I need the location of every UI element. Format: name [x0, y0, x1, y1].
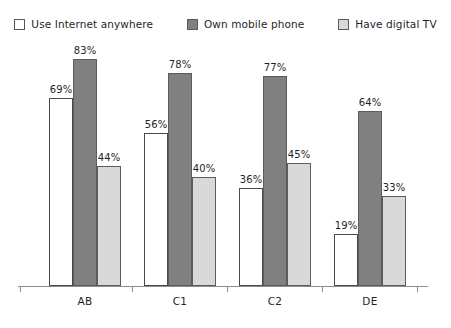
- bar-group-de: 19%64%33%: [334, 38, 406, 286]
- x-axis-label-ab: AB: [39, 295, 131, 307]
- x-axis-label-c1: C1: [134, 295, 226, 307]
- bar-de-series1[interactable]: [358, 111, 382, 286]
- bar-ab-series1[interactable]: [73, 59, 97, 286]
- x-axis-tick: [20, 286, 21, 292]
- bar-de-series0[interactable]: [334, 234, 358, 286]
- legend-item-label: Have digital TV: [355, 18, 436, 30]
- bar-value-label: 33%: [373, 182, 415, 193]
- bar-de-series2[interactable]: [382, 196, 406, 286]
- legend-item-label: Own mobile phone: [204, 18, 304, 30]
- legend-item-use-internet-anywhere: Use Internet anywhere: [14, 18, 153, 30]
- bar-value-label: 40%: [183, 163, 225, 174]
- bar-chart: Use Internet anywhere Own mobile phone H…: [0, 0, 451, 328]
- legend-swatch-icon: [187, 19, 198, 30]
- x-axis-label-c2: C2: [229, 295, 321, 307]
- bar-value-label: 64%: [349, 97, 391, 108]
- bar-value-label: 44%: [88, 152, 130, 163]
- bar-ab-series0[interactable]: [49, 98, 73, 286]
- bar-group-ab: 69%83%44%: [49, 38, 121, 286]
- plot-area: 69%83%44%56%78%40%36%77%45%19%64%33%: [18, 38, 433, 286]
- bar-c1-series2[interactable]: [192, 177, 216, 286]
- bar-c2-series1[interactable]: [263, 76, 287, 286]
- bar-c1-series0[interactable]: [144, 133, 168, 286]
- x-axis-tick: [227, 286, 228, 292]
- legend-swatch-icon: [14, 19, 25, 30]
- legend-swatch-icon: [338, 19, 349, 30]
- bar-value-label: 77%: [254, 62, 296, 73]
- legend-item-have-digital-tv: Have digital TV: [338, 18, 436, 30]
- legend-item-label: Use Internet anywhere: [31, 18, 153, 30]
- bar-group-c1: 56%78%40%: [144, 38, 216, 286]
- x-axis-label-de: DE: [324, 295, 416, 307]
- x-axis-tick: [417, 286, 418, 292]
- legend-item-own-mobile-phone: Own mobile phone: [187, 18, 304, 30]
- bar-ab-series2[interactable]: [97, 166, 121, 286]
- bar-value-label: 78%: [159, 59, 201, 70]
- bar-c2-series2[interactable]: [287, 163, 311, 286]
- bar-c1-series1[interactable]: [168, 73, 192, 286]
- bar-value-label: 45%: [278, 149, 320, 160]
- x-axis-tick: [132, 286, 133, 292]
- x-axis-category-labels: ABC1C2DE: [18, 295, 433, 313]
- x-axis-line: [18, 286, 428, 287]
- bars-layer: 69%83%44%56%78%40%36%77%45%19%64%33%: [18, 38, 433, 286]
- bar-group-c2: 36%77%45%: [239, 38, 311, 286]
- x-axis-tick: [322, 286, 323, 292]
- bar-c2-series0[interactable]: [239, 188, 263, 286]
- bar-value-label: 83%: [64, 45, 106, 56]
- chart-legend: Use Internet anywhere Own mobile phone H…: [0, 14, 451, 34]
